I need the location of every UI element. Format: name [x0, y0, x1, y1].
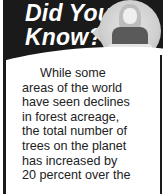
body-line: While some — [22, 66, 158, 81]
did-you-know-callout: Did You Know? While some areas of the wo… — [0, 0, 165, 194]
title-line-1: Did You — [25, 1, 112, 25]
body-line: areas of the world — [22, 81, 158, 96]
body-line: 20 percent over the — [22, 168, 158, 183]
left-border — [3, 55, 6, 194]
callout-body-text: While some areas of the world have seen … — [22, 66, 158, 183]
person-face — [123, 8, 137, 24]
body-line: has increased by — [22, 154, 158, 169]
body-line: trees on the planet — [22, 139, 158, 154]
body-line: in forest acreage, — [22, 110, 158, 125]
callout-header: Did You Know? — [3, 0, 163, 62]
body-line: have seen declines — [22, 95, 158, 110]
right-border — [160, 55, 162, 194]
body-line: the total number of — [22, 124, 158, 139]
